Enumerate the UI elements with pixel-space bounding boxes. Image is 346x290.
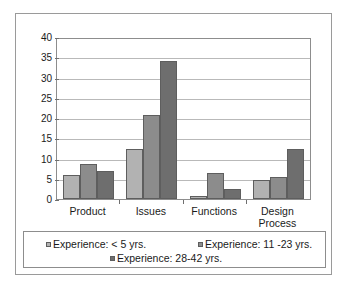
bar xyxy=(190,196,207,199)
bar-group xyxy=(63,39,114,199)
y-axis-tick-label: 35 xyxy=(28,53,52,63)
x-axis-tick-label: DesignProcess xyxy=(246,205,309,229)
legend-label: Experience: 11 -23 yrs. xyxy=(205,239,312,250)
x-axis-tick-mark xyxy=(246,200,247,204)
y-axis-tick-label: 15 xyxy=(28,134,52,144)
legend-swatch-icon xyxy=(110,256,115,261)
bar xyxy=(63,175,80,199)
legend-swatch-icon xyxy=(46,242,51,247)
y-axis-tick-mark xyxy=(55,180,59,181)
legend-item-experience-28-42: Experience: 28-42 yrs. xyxy=(110,253,222,264)
y-axis: 4035302520151050 xyxy=(24,38,52,200)
bar-group xyxy=(253,39,304,199)
y-axis-tick-label: 10 xyxy=(28,155,52,165)
y-axis-tick-mark xyxy=(55,160,59,161)
legend-label: Experience: < 5 yrs. xyxy=(53,239,146,250)
bar-group xyxy=(190,39,241,199)
chart-legend: Experience: < 5 yrs. Experience: 11 -23 … xyxy=(23,231,326,268)
bar xyxy=(143,115,160,199)
bar-group xyxy=(126,39,177,199)
legend-swatch-icon xyxy=(198,242,203,247)
x-axis-tick-mark xyxy=(183,200,184,204)
x-axis-tick-label-line: Product xyxy=(56,205,119,217)
y-axis-tick-mark xyxy=(55,200,59,201)
x-axis-tick-label: Product xyxy=(56,205,119,217)
y-axis-tick-label: 0 xyxy=(28,195,52,205)
bar xyxy=(287,149,304,199)
y-axis-tick-label: 5 xyxy=(28,175,52,185)
x-axis-tick-label: Issues xyxy=(119,205,182,217)
y-axis-tick-mark xyxy=(55,38,59,39)
y-axis-tick-mark xyxy=(55,79,59,80)
y-axis-tick-mark xyxy=(55,119,59,120)
bar-chart: 4035302520151050 xyxy=(16,14,333,219)
bar xyxy=(160,61,177,199)
bar xyxy=(253,180,270,199)
y-axis-tick-label: 40 xyxy=(28,33,52,43)
x-axis-tick-mark xyxy=(119,200,120,204)
bar xyxy=(224,189,241,199)
x-axis-tick-label: Functions xyxy=(183,205,246,217)
y-axis-tick-label: 20 xyxy=(28,114,52,124)
bar xyxy=(126,149,143,199)
legend-item-experience-lt-5: Experience: < 5 yrs. xyxy=(46,239,146,250)
y-axis-tick-mark xyxy=(55,58,59,59)
y-axis-tick-label: 25 xyxy=(28,94,52,104)
x-axis-tick-label-line: Issues xyxy=(119,205,182,217)
bar xyxy=(270,177,287,199)
figure-frame: 4035302520151050 ProductIssuesFunctionsD… xyxy=(15,13,332,275)
legend-label: Experience: 28-42 yrs. xyxy=(117,253,222,264)
y-axis-tick-mark xyxy=(55,99,59,100)
x-axis-tick-label-line: Process xyxy=(246,217,309,229)
bar xyxy=(80,164,97,199)
bars-layer xyxy=(57,39,310,199)
x-axis-tick-label-line: Functions xyxy=(183,205,246,217)
y-axis-tick-mark xyxy=(55,139,59,140)
y-axis-tick-label: 30 xyxy=(28,74,52,84)
legend-item-experience-11-23: Experience: 11 -23 yrs. xyxy=(198,239,312,250)
bar xyxy=(97,171,114,199)
x-axis-tick-label-line: Design xyxy=(246,205,309,217)
bar xyxy=(207,173,224,199)
